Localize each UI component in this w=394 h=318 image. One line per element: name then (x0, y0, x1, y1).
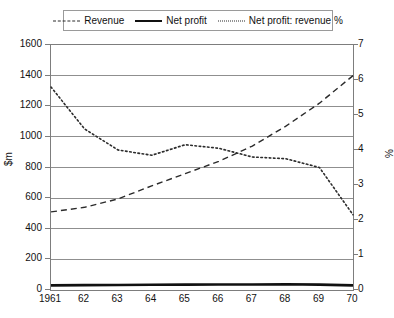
y-axis-right-tick-label: 6 (358, 74, 378, 84)
y-axis-title-right: % (385, 149, 394, 158)
y-axis-left-tick-label: 0 (0, 284, 42, 294)
dashed-line-icon (53, 17, 80, 25)
legend-item-label: Revenue (84, 16, 124, 26)
series-line (51, 76, 353, 212)
y-axis-right-tick-label: 7 (358, 39, 378, 49)
chart-figure: Revenue Net profit Net profit: revenue %… (0, 0, 394, 318)
x-axis-tick-label: 70 (332, 294, 372, 304)
legend-item-net-profit-revenue-pct: Net profit: revenue % (218, 16, 343, 26)
plot-area (50, 44, 354, 291)
y-axis-left-tick-label: 1000 (0, 131, 42, 141)
y-axis-left-tick-label: 1400 (0, 70, 42, 80)
legend-item-label: Net profit: revenue % (249, 16, 343, 26)
y-axis-right-tick-label: 1 (358, 249, 378, 259)
y-axis-right-tick-label: 3 (358, 179, 378, 189)
legend-item-net-profit: Net profit (135, 16, 207, 26)
y-axis-left-tick-label: 200 (0, 253, 42, 263)
y-axis-left-tick-label: 400 (0, 223, 42, 233)
legend-item-label: Net profit (166, 16, 207, 26)
y-axis-right-tick-label: 2 (358, 214, 378, 224)
series-line (51, 87, 353, 215)
y-axis-left-tick-label: 1600 (0, 39, 42, 49)
y-axis-left-tick-label: 600 (0, 192, 42, 202)
y-axis-left-tick-label: 1200 (0, 100, 42, 110)
solid-line-icon (135, 17, 162, 25)
series-line (51, 284, 353, 285)
dotted-line-icon (218, 17, 245, 25)
data-series-layer (51, 45, 353, 290)
y-axis-right-tick-label: 4 (358, 144, 378, 154)
chart-legend: Revenue Net profit Net profit: revenue % (63, 10, 333, 31)
y-axis-right-tick-label: 5 (358, 109, 378, 119)
legend-item-revenue: Revenue (53, 16, 124, 26)
y-axis-left-tick-label: 800 (0, 162, 42, 172)
y-axis-right-tick-label: 0 (358, 284, 378, 294)
